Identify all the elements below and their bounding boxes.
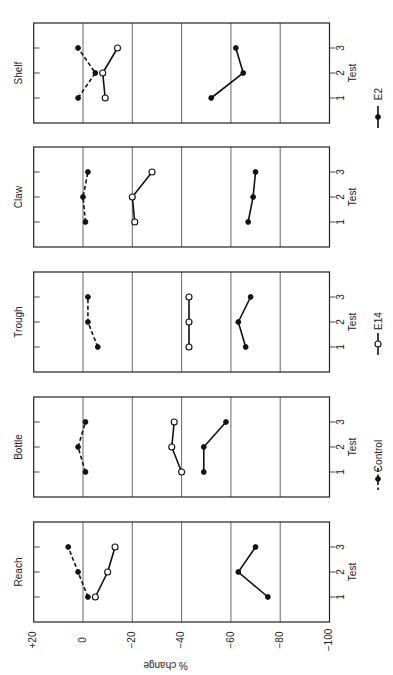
test-tick-label: 3	[335, 419, 346, 425]
data-point	[81, 195, 86, 200]
test-tick-label: 1	[335, 344, 346, 350]
value-axis-label: % change	[143, 660, 188, 671]
value-tick-label: 0	[77, 637, 88, 643]
data-point	[76, 46, 81, 51]
panel-shelf: Shelf123Test	[13, 23, 358, 123]
data-point	[179, 469, 185, 475]
data-point	[112, 544, 118, 550]
test-tick-label: 1	[335, 594, 346, 600]
value-tick-label: +20	[27, 631, 38, 648]
legend-label: E2	[373, 87, 384, 100]
legend-item-e14: E14	[373, 312, 384, 355]
data-point	[86, 595, 91, 600]
series-line-e2	[204, 422, 226, 472]
test-tick-label: 3	[335, 544, 346, 550]
value-axis: +200−20−40−60−80−100% change	[27, 628, 334, 671]
panel-trough: Trough123Test	[13, 272, 358, 372]
panel-reach: Reach123Test	[13, 522, 358, 622]
series-line-e2	[238, 547, 268, 597]
data-point	[201, 445, 206, 450]
data-point	[224, 420, 229, 425]
panel-title: Trough	[13, 306, 24, 337]
series-line-e2	[211, 48, 243, 98]
data-point	[186, 294, 192, 300]
data-point	[169, 444, 175, 450]
legend-swatch-marker	[375, 341, 381, 347]
test-tick-label: 1	[335, 469, 346, 475]
data-point	[66, 545, 71, 550]
test-tick-label: 1	[335, 219, 346, 225]
data-point	[253, 545, 258, 550]
test-axis-label: Test	[347, 64, 358, 83]
data-point	[186, 319, 192, 325]
data-point	[83, 420, 88, 425]
test-tick-label: 2	[335, 70, 346, 76]
data-point	[115, 45, 121, 51]
panel-title: Bottle	[13, 434, 24, 460]
legend-swatch-marker	[376, 477, 381, 482]
data-point	[246, 220, 251, 225]
data-point	[105, 569, 111, 575]
data-point	[102, 95, 108, 101]
data-point	[243, 345, 248, 350]
data-point	[149, 169, 155, 175]
data-point	[201, 470, 206, 475]
panel-claw: Claw123Test	[13, 147, 358, 247]
data-point	[83, 220, 88, 225]
data-point	[251, 195, 256, 200]
data-point	[86, 320, 91, 325]
data-point	[100, 70, 106, 76]
data-point	[248, 295, 253, 300]
legend: ControlE14E2	[373, 87, 384, 490]
data-point	[83, 470, 88, 475]
panel-title: Claw	[13, 185, 24, 208]
test-tick-label: 1	[335, 95, 346, 101]
data-point	[233, 46, 238, 51]
test-tick-label: 3	[335, 45, 346, 51]
legend-label: E14	[373, 312, 384, 330]
data-point	[265, 595, 270, 600]
data-point	[132, 219, 138, 225]
panel-bottle: Bottle123Test	[13, 397, 358, 497]
data-point	[186, 344, 192, 350]
data-point	[86, 170, 91, 175]
data-point	[209, 96, 214, 101]
legend-item-e2: E2	[373, 87, 384, 128]
data-point	[95, 345, 100, 350]
panel-title: Reach	[13, 558, 24, 587]
legend-item-control: Control	[373, 440, 384, 490]
test-axis-label: Test	[347, 188, 358, 207]
data-point	[76, 96, 81, 101]
test-tick-label: 3	[335, 169, 346, 175]
chart-panels: Shelf123TestClaw123TestTrough123TestBott…	[13, 23, 358, 622]
data-point	[93, 71, 98, 76]
chart: Shelf123TestClaw123TestTrough123TestBott…	[0, 0, 393, 675]
data-point	[241, 71, 246, 76]
data-point	[86, 295, 91, 300]
data-point	[171, 419, 177, 425]
value-tick-label: −100	[323, 628, 334, 651]
legend-swatch-marker	[376, 115, 381, 120]
test-axis-label: Test	[347, 563, 358, 582]
data-point	[129, 194, 135, 200]
test-axis-label: Test	[347, 313, 358, 332]
test-tick-label: 2	[335, 444, 346, 450]
data-point	[92, 594, 98, 600]
test-tick-label: 2	[335, 194, 346, 200]
data-point	[76, 445, 81, 450]
test-tick-label: 3	[335, 294, 346, 300]
value-tick-label: −40	[175, 631, 186, 648]
panel-title: Shelf	[13, 61, 24, 84]
data-point	[76, 570, 81, 575]
legend-label: Control	[373, 440, 384, 472]
test-tick-label: 2	[335, 319, 346, 325]
data-point	[236, 320, 241, 325]
data-point	[236, 570, 241, 575]
value-tick-label: −20	[126, 631, 137, 648]
test-tick-label: 2	[335, 569, 346, 575]
value-tick-label: −60	[225, 631, 236, 648]
value-tick-label: −80	[274, 631, 285, 648]
data-point	[253, 170, 258, 175]
test-axis-label: Test	[347, 438, 358, 457]
